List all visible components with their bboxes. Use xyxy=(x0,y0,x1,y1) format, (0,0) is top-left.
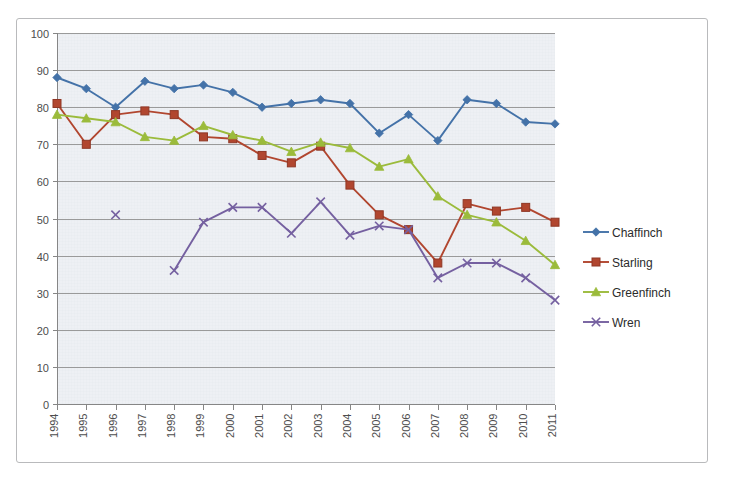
legend-label: Chaffinch xyxy=(612,226,662,240)
chart-frame: 0102030405060708090100 19941995199619971… xyxy=(16,18,708,463)
legend-item-wren[interactable]: Wren xyxy=(583,316,640,330)
y-tick-label: 90 xyxy=(37,65,49,77)
legend-marker-icon[interactable] xyxy=(592,258,600,266)
data-point[interactable] xyxy=(141,107,149,115)
x-tick-label: 2003 xyxy=(312,414,324,438)
x-tick-label: 1999 xyxy=(194,414,206,438)
data-point[interactable] xyxy=(170,111,178,119)
y-axis: 0102030405060708090100 xyxy=(31,28,58,411)
legend-item-starling[interactable]: Starling xyxy=(583,256,653,270)
x-tick-label: 2009 xyxy=(487,414,499,438)
legend-item-chaffinch[interactable]: Chaffinch xyxy=(583,226,662,240)
data-point[interactable] xyxy=(375,211,383,219)
legend-marker-icon[interactable] xyxy=(592,228,600,236)
data-point[interactable] xyxy=(82,140,90,148)
x-tick-label: 1994 xyxy=(48,414,60,438)
x-tick-label: 2011 xyxy=(546,414,558,438)
chart-legend[interactable]: ChaffinchStarlingGreenfinchWren xyxy=(583,226,671,330)
y-tick-label: 40 xyxy=(37,251,49,263)
y-tick-label: 10 xyxy=(37,362,49,374)
y-tick-label: 80 xyxy=(37,102,49,114)
x-tick-label: 1998 xyxy=(165,414,177,438)
y-tick-label: 60 xyxy=(37,176,49,188)
data-point[interactable] xyxy=(434,259,442,267)
y-tick-label: 70 xyxy=(37,139,49,151)
line-chart[interactable]: 0102030405060708090100 19941995199619971… xyxy=(17,19,707,462)
data-point[interactable] xyxy=(492,207,500,215)
data-point[interactable] xyxy=(551,218,559,226)
x-tick-label: 1995 xyxy=(77,414,89,438)
data-point[interactable] xyxy=(287,159,295,167)
x-tick-label: 2006 xyxy=(400,414,412,438)
x-tick-label: 2008 xyxy=(458,414,470,438)
x-axis: 1994199519961997199819992000200120022003… xyxy=(48,405,558,438)
data-point[interactable] xyxy=(258,151,266,159)
y-tick-label: 0 xyxy=(43,399,49,411)
data-point[interactable] xyxy=(53,99,61,107)
legend-label: Wren xyxy=(612,316,640,330)
legend-item-greenfinch[interactable]: Greenfinch xyxy=(583,286,671,300)
data-point[interactable] xyxy=(346,181,354,189)
x-tick-label: 1996 xyxy=(107,414,119,438)
y-tick-label: 50 xyxy=(37,214,49,226)
x-tick-label: 2007 xyxy=(429,414,441,438)
y-tick-label: 30 xyxy=(37,288,49,300)
x-tick-label: 1997 xyxy=(136,414,148,438)
x-tick-label: 2000 xyxy=(224,414,236,438)
data-point[interactable] xyxy=(199,133,207,141)
legend-label: Starling xyxy=(612,256,653,270)
data-point[interactable] xyxy=(463,200,471,208)
x-tick-label: 2005 xyxy=(370,414,382,438)
y-tick-label: 20 xyxy=(37,325,49,337)
data-point[interactable] xyxy=(522,203,530,211)
x-tick-label: 2010 xyxy=(517,414,529,438)
x-tick-label: 2001 xyxy=(253,414,265,438)
y-tick-label: 100 xyxy=(31,28,49,40)
x-tick-label: 2002 xyxy=(282,414,294,438)
x-tick-label: 2004 xyxy=(341,414,353,438)
legend-label: Greenfinch xyxy=(612,286,671,300)
